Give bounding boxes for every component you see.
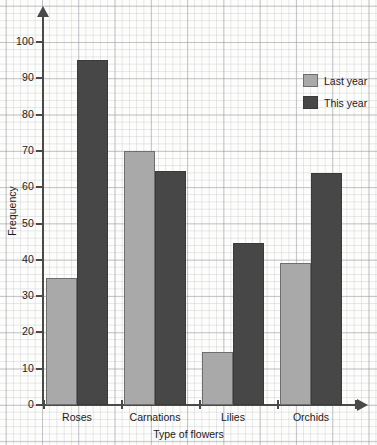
bar-chart-plot: 0102030405060708090100 RosesCarnationsLi… — [0, 0, 377, 445]
legend-item-last-year: Last year — [303, 74, 367, 87]
x-tick-end — [355, 400, 357, 409]
y-tick-70 — [36, 150, 44, 152]
y-axis-title: Frequency — [6, 171, 18, 251]
y-tick-10 — [36, 368, 44, 370]
x-category-label-carnations: Carnations — [112, 411, 198, 423]
y-tick-label-30: 30 — [22, 289, 34, 301]
legend-swatch-icon-this-year — [303, 96, 318, 109]
y-tick-label-10: 10 — [22, 362, 34, 374]
bar-carnations-this-year — [155, 171, 186, 405]
y-tick-100 — [36, 41, 44, 43]
y-tick-label-20: 20 — [22, 325, 34, 337]
x-tick-orchids — [277, 400, 279, 409]
x-category-label-roses: Roses — [34, 411, 120, 423]
bar-orchids-last-year — [280, 263, 311, 405]
y-tick-label-40: 40 — [22, 253, 34, 265]
y-tick-label-0: 0 — [28, 398, 34, 410]
legend-item-this-year: This year — [303, 96, 367, 109]
y-tick-label-90: 90 — [22, 71, 34, 83]
y-tick-20 — [36, 331, 44, 333]
chart-screenshot: 0102030405060708090100 RosesCarnationsLi… — [0, 0, 377, 445]
y-tick-60 — [36, 186, 44, 188]
y-tick-90 — [36, 77, 44, 79]
x-axis-title: Type of flowers — [0, 428, 377, 440]
bar-carnations-last-year — [124, 151, 155, 405]
bar-lilies-last-year — [202, 352, 233, 405]
y-tick-label-70: 70 — [22, 144, 34, 156]
y-tick-80 — [36, 114, 44, 116]
y-tick-label-50: 50 — [22, 217, 34, 229]
y-axis-arrow-icon — [37, 6, 49, 17]
chart-legend: Last year This year — [303, 74, 367, 109]
bar-roses-last-year — [46, 278, 77, 405]
legend-label-last-year: Last year — [324, 75, 367, 87]
bar-orchids-this-year — [311, 173, 342, 405]
y-tick-label-80: 80 — [22, 108, 34, 120]
x-tick-roses — [43, 400, 45, 409]
x-axis-arrow-icon — [357, 399, 368, 411]
y-tick-label-100: 100 — [16, 35, 34, 47]
x-tick-carnations — [121, 400, 123, 409]
y-tick-30 — [36, 295, 44, 297]
y-tick-40 — [36, 259, 44, 261]
y-tick-50 — [36, 223, 44, 225]
legend-swatch-icon-last-year — [303, 74, 318, 87]
y-tick-label-60: 60 — [22, 180, 34, 192]
bar-roses-this-year — [77, 60, 108, 405]
legend-label-this-year: This year — [324, 97, 367, 109]
y-axis-line — [42, 14, 44, 406]
x-category-label-orchids: Orchids — [268, 411, 354, 423]
x-tick-lilies — [199, 400, 201, 409]
x-category-label-lilies: Lilies — [190, 411, 276, 423]
bar-lilies-this-year — [233, 243, 264, 405]
